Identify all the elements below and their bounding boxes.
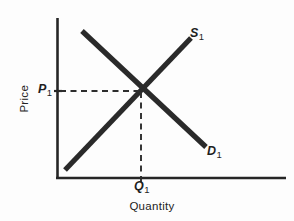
supply-curve-label: S1 [190, 27, 204, 40]
demand-curve-label-text: D [207, 144, 216, 158]
demand-curve-label: D1 [207, 145, 221, 158]
quantity-tick-label: Q1 [134, 180, 149, 193]
supply-curve [65, 38, 191, 170]
demand-curve-label-subscript: 1 [217, 149, 222, 160]
price-tick-label-subscript: 1 [47, 87, 52, 98]
y-axis-title: Price [19, 69, 31, 129]
supply-curve-label-subscript: 1 [199, 31, 204, 42]
supply-demand-chart: S1 D1 P1 Q1 Price Quantity [0, 0, 294, 221]
quantity-tick-label-subscript: 1 [144, 184, 149, 195]
price-tick-label-text: P [38, 82, 46, 96]
supply-curve-label-text: S [190, 26, 198, 40]
price-tick-label: P1 [38, 83, 52, 96]
x-axis-title: Quantity [112, 201, 192, 213]
quantity-tick-label-text: Q [134, 179, 144, 193]
